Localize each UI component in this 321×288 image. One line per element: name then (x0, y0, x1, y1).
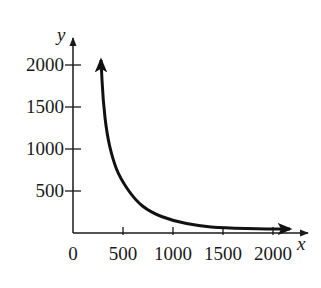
data-curve (101, 60, 290, 229)
y-axis-label: y (55, 24, 66, 45)
y-tick-label: 500 (36, 180, 65, 201)
y-tick-label: 1500 (26, 96, 64, 117)
x-tick-label: 0 (68, 243, 78, 264)
axes: xy (55, 24, 308, 254)
x-tick-label: 2000 (254, 243, 292, 264)
chart: xy 0500100015002000500100015002000 (0, 0, 321, 288)
x-tick-label: 1500 (204, 243, 242, 264)
x-tick-label: 1000 (154, 243, 192, 264)
y-tick-label: 1000 (26, 138, 64, 159)
x-tick-label: 500 (109, 243, 138, 264)
x-axis-label: x (296, 233, 306, 254)
y-tick-label: 2000 (26, 54, 64, 75)
